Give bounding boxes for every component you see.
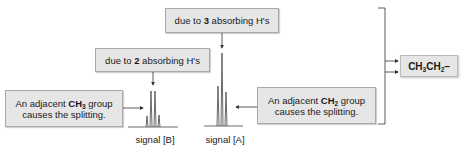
text-line2: causes the splitting.: [22, 109, 105, 120]
text-prefix: An adjacent: [15, 98, 68, 109]
signal-b-spectrum: [128, 91, 178, 127]
text-suffix: group: [86, 98, 113, 109]
box-ethyl-group: CH3CH2–: [400, 55, 458, 77]
text-suffix: absorbing H's: [209, 15, 269, 26]
text-group: CH: [68, 98, 82, 109]
signal-a-label: signal [A]: [200, 134, 250, 145]
signal-b-label: signal [B]: [130, 134, 180, 145]
text-prefix: An adjacent: [268, 95, 321, 106]
text-group: CH: [321, 95, 335, 106]
box-adjacent-ch3: An adjacent CH3 group causes the splitti…: [5, 90, 123, 127]
box-two-absorbing-h: due to 2 absorbing H's: [95, 48, 210, 72]
bracket: [378, 8, 385, 124]
text-prefix: due to: [105, 55, 134, 66]
text-bond: –: [444, 61, 450, 72]
text-prefix: due to: [175, 15, 204, 26]
text-ch: CH: [426, 61, 440, 72]
box-adjacent-ch2: An adjacent CH2 group causes the splitti…: [257, 87, 376, 124]
text-ch: CH: [408, 61, 422, 72]
text-suffix: absorbing H's: [139, 55, 199, 66]
box-three-absorbing-h: due to 3 absorbing H's: [165, 8, 279, 33]
text-line2: causes the splitting.: [275, 106, 358, 117]
text-suffix: group: [338, 95, 365, 106]
